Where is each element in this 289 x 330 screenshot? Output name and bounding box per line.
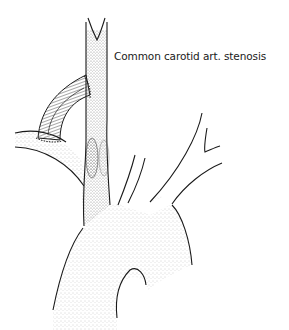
aortic-arch xyxy=(53,203,192,330)
bypass-graft xyxy=(36,75,90,142)
arch-branch-vessels xyxy=(118,113,222,205)
stenosis-label: Common carotid art. stenosis xyxy=(114,50,266,62)
carotid-illustration: Common carotid art. stenosis xyxy=(0,0,289,330)
common-carotid-artery xyxy=(82,18,110,226)
